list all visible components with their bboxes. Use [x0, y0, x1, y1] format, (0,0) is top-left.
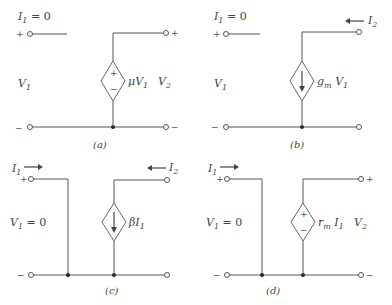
- input-minus-sign: −: [17, 270, 25, 280]
- source-upper-lead: [113, 33, 164, 61]
- source-value-label: βI1: [128, 216, 145, 231]
- input-current-label: I1 = 0: [213, 10, 247, 25]
- caption-b: (b): [290, 139, 304, 150]
- circuit-a: I1 = 0 + V1 − + − + − μV1 V2 (a): [15, 10, 179, 150]
- source-value-label: rm I1: [318, 216, 344, 231]
- input-terminal-top: [225, 177, 230, 182]
- source-upper-lead: [302, 32, 357, 61]
- input-plus-sign: +: [216, 174, 224, 184]
- output-current-label: I2: [367, 14, 377, 29]
- output-terminal-top: [165, 178, 170, 183]
- input-current-label: I1 = 0: [17, 10, 51, 25]
- output-terminal-bottom: [357, 125, 362, 130]
- output-minus-sign: −: [171, 122, 179, 132]
- source-plus-sign: +: [110, 68, 118, 78]
- circuit-b: I1 = 0 + V1 − gm V1 I2 (b): [211, 10, 377, 150]
- source-plus-sign: +: [300, 209, 308, 219]
- circuit-d: I1 + V1 = 0 − + − + − rm I1 V2 (d): [206, 162, 374, 296]
- output-plus-sign: +: [366, 174, 374, 184]
- input-voltage-label: V1: [18, 77, 31, 92]
- caption-d: (d): [266, 285, 280, 296]
- output-terminal-top: [357, 30, 362, 35]
- output-plus-sign: +: [171, 28, 179, 38]
- input-terminal-bottom: [225, 273, 230, 278]
- output-current-label: I2: [168, 161, 178, 176]
- output-voltage-label: V2: [354, 216, 367, 231]
- output-terminal-bottom: [164, 125, 169, 130]
- input-minus-sign: −: [213, 270, 221, 280]
- input-minus-sign: −: [211, 122, 219, 132]
- output-terminal-bottom: [359, 273, 364, 278]
- circuit-c: I1 + V1 = 0 − βI1 I2 (c): [10, 161, 178, 296]
- input-terminal-top: [29, 177, 34, 182]
- input-plus-sign: +: [16, 29, 24, 39]
- source-value-label: μV1: [128, 75, 148, 90]
- caption-a: (a): [93, 139, 107, 150]
- input-terminal-bottom: [224, 125, 229, 130]
- input-terminal-top: [224, 32, 229, 37]
- arrowhead-left-icon: [345, 18, 350, 24]
- input-terminal-bottom: [29, 273, 34, 278]
- junction-dot-left: [66, 273, 70, 277]
- arrowhead-right-icon: [38, 164, 43, 170]
- input-plus-sign: +: [20, 174, 28, 184]
- junction-dot-left: [260, 273, 264, 277]
- input-minus-sign: −: [15, 123, 23, 133]
- source-upper-lead: [303, 179, 359, 203]
- output-voltage-label: V2: [158, 75, 171, 90]
- two-port-equivalent-circuits-figure: I1 = 0 + V1 − + − + − μV1 V2 (a) I1 = 0 …: [0, 0, 392, 305]
- output-terminal-bottom: [165, 273, 170, 278]
- input-voltage-label: V1 = 0: [206, 216, 242, 231]
- output-terminal-top: [164, 31, 169, 36]
- input-plus-sign: +: [213, 29, 221, 39]
- dependent-voltage-source: [101, 61, 125, 101]
- caption-c: (c): [105, 285, 119, 296]
- source-minus-sign: −: [110, 84, 118, 94]
- source-value-label: gm V1: [317, 75, 348, 90]
- input-terminal-top: [28, 32, 33, 37]
- output-minus-sign: −: [366, 270, 374, 280]
- input-voltage-label: V1: [214, 77, 227, 92]
- arrowhead-left-icon: [147, 165, 152, 171]
- source-upper-lead: [114, 180, 165, 203]
- output-terminal-top: [359, 177, 364, 182]
- arrowhead-right-icon: [234, 164, 239, 170]
- source-minus-sign: −: [300, 225, 308, 235]
- input-terminal-bottom: [28, 125, 33, 130]
- input-voltage-label: V1 = 0: [10, 216, 46, 231]
